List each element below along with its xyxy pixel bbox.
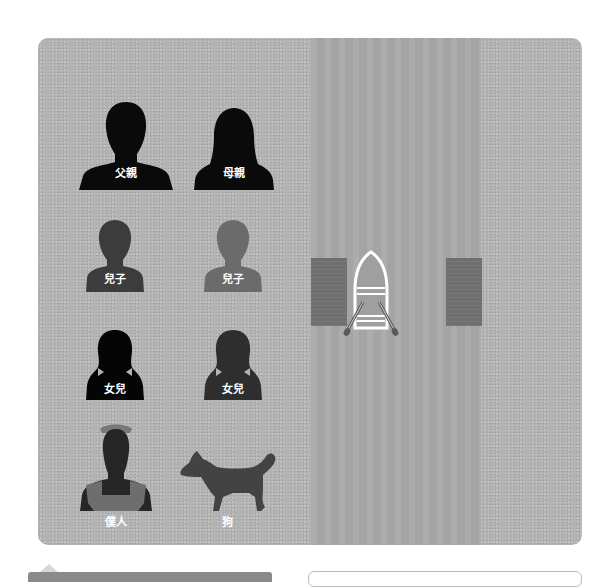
character-servant[interactable]: 僕人 (80, 423, 152, 527)
boat[interactable] (343, 250, 399, 336)
character-daughter-1[interactable]: 女兒 (86, 330, 144, 400)
character-label: 女兒 (204, 380, 262, 396)
character-label: 父親 (79, 164, 173, 180)
character-label: 狗 (179, 513, 277, 529)
dog-silhouette-icon (179, 449, 277, 513)
character-son-1[interactable]: 兒子 (86, 220, 144, 292)
pointer-icon (40, 564, 58, 572)
character-label: 母親 (194, 164, 274, 180)
servant-silhouette-icon (80, 423, 152, 511)
character-son-2[interactable]: 兒子 (204, 220, 262, 292)
left-dock (311, 258, 347, 326)
character-mother[interactable]: 母親 (194, 108, 274, 190)
character-label: 兒子 (204, 270, 262, 286)
action-box[interactable] (308, 571, 582, 587)
character-label: 僕人 (80, 513, 152, 529)
message-bar (28, 572, 272, 582)
character-label: 兒子 (86, 270, 144, 286)
boat-icon (343, 250, 399, 336)
character-dog[interactable]: 狗 (179, 449, 277, 527)
game-board: 父親 母親 兒子 兒子 女兒 女兒 (38, 38, 582, 545)
character-label: 女兒 (86, 380, 144, 396)
character-daughter-2[interactable]: 女兒 (204, 330, 262, 400)
character-father[interactable]: 父親 (79, 102, 173, 190)
right-dock (446, 258, 482, 326)
